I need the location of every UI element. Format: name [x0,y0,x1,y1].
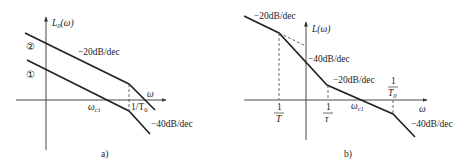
x-axis-label: ω [147,89,154,99]
caption-b: b) [344,149,352,160]
slope-lower-label: −40dB/dec [151,119,193,129]
magnitude-curve [244,16,415,137]
svg-text:T: T [276,114,282,124]
slope-upper-label: −20dB/dec [78,47,120,57]
slope-1-label: −20dB/dec [254,11,296,21]
panel-a: L0(ω) ② ① −20dB/dec ω ωc1 1/T0 −40dB/dec… [16,17,193,160]
crossover-label: ωc1 [88,102,101,113]
y-axis-label: L(ω) [311,24,330,35]
slope-2-label: −40dB/dec [308,54,350,64]
tick-T0-label: 1 T0 [388,76,398,99]
panel-b: −20dB/dec L(ω) −40dB/dec −20dB/dec 1 T0 … [244,11,453,160]
svg-text:τ: τ [325,114,329,124]
curve-1 [27,60,150,134]
svg-text:1: 1 [391,76,396,86]
curve-2 [25,33,155,110]
slope-4-label: −40dB/dec [411,119,453,129]
curve-2-marker: ② [26,42,35,52]
bode-diagrams: L0(ω) ② ① −20dB/dec ω ωc1 1/T0 −40dB/dec… [0,0,468,166]
caption-a: a) [101,149,108,160]
svg-text:T0: T0 [388,88,397,99]
svg-text:1: 1 [277,102,282,112]
x-axis-label: ω [419,104,426,114]
curve-1-marker: ① [26,70,35,80]
svg-text:1: 1 [326,102,331,112]
tick-tau-label: 1 τ [323,102,333,124]
crossover-label: ωc1 [351,101,364,112]
slope-3-label: −20dB/dec [333,75,375,85]
y-axis-label: L0(ω) [51,18,74,29]
asymptote-dashed-line [279,33,306,46]
corner-label: 1/T0 [131,102,147,113]
tick-T-label: 1 T [274,102,284,124]
